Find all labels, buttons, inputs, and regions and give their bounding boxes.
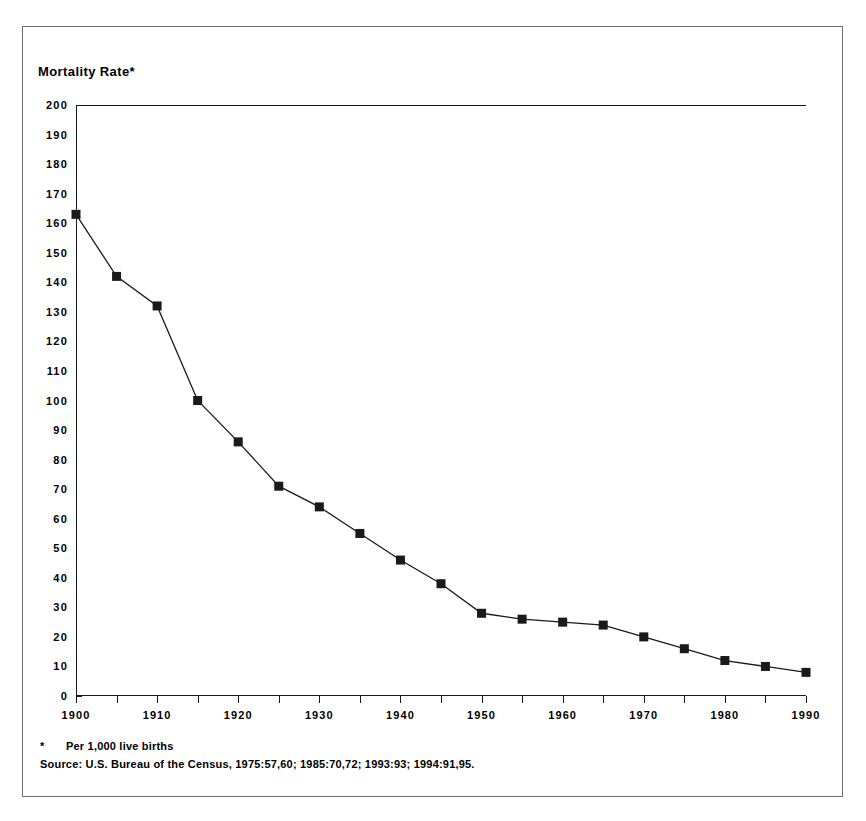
y-axis-tick-label: 190	[46, 129, 68, 141]
chart-title: Mortality Rate*	[38, 64, 135, 79]
footnote-asterisk: *	[40, 738, 66, 755]
x-axis-tick-mark	[117, 696, 118, 703]
data-point-marker	[802, 668, 811, 677]
data-point-marker	[558, 618, 567, 627]
y-axis-tick-label: 30	[53, 601, 68, 613]
data-point-marker	[153, 301, 162, 310]
y-axis-tick-label: 70	[53, 483, 68, 495]
y-axis-tick-label: 150	[46, 247, 68, 259]
x-axis-tick-label: 1950	[467, 709, 496, 721]
x-axis-tick-mark	[806, 696, 807, 703]
x-axis-tick-mark	[238, 696, 239, 703]
y-axis-tick-label: 0	[61, 690, 68, 702]
x-axis-tick-mark	[319, 696, 320, 703]
data-point-marker	[234, 437, 243, 446]
y-axis-tick-label: 20	[53, 631, 68, 643]
x-axis-tick-label: 1900	[62, 709, 91, 721]
y-axis-tick-label: 90	[53, 424, 68, 436]
x-axis-tick-label: 1930	[305, 709, 334, 721]
x-axis-tick-labels: 1900191019201930194019501960197019801990	[76, 709, 806, 727]
x-axis-tick-marks	[76, 696, 806, 706]
x-axis-tick-mark	[684, 696, 685, 703]
x-axis-tick-mark	[198, 696, 199, 703]
data-point-marker	[761, 662, 770, 671]
x-axis-tick-label: 1970	[629, 709, 658, 721]
x-axis-tick-mark	[482, 696, 483, 703]
x-axis-tick-mark	[157, 696, 158, 703]
data-point-marker	[193, 396, 202, 405]
figure-container: Mortality Rate* 200190180170160150140130…	[0, 0, 866, 821]
x-axis-tick-label: 1940	[386, 709, 415, 721]
data-point-marker	[518, 615, 527, 624]
mortality-rate-line-series	[76, 105, 806, 696]
y-axis-tick-label: 50	[53, 542, 68, 554]
x-axis-tick-mark	[644, 696, 645, 703]
data-point-marker	[72, 210, 81, 219]
x-axis-tick-mark	[725, 696, 726, 703]
x-axis-tick-label: 1990	[792, 709, 821, 721]
footnote-source-text: Source: U.S. Bureau of the Census, 1975:…	[40, 756, 475, 773]
x-axis-tick-mark	[522, 696, 523, 703]
data-point-marker	[680, 644, 689, 653]
x-axis-tick-mark	[76, 696, 77, 703]
x-axis-tick-mark	[279, 696, 280, 703]
x-axis-tick-mark	[603, 696, 604, 703]
series-polyline	[76, 214, 806, 672]
footnote-note-row: * Per 1,000 live births	[40, 738, 820, 755]
y-axis-tick-label: 120	[46, 335, 68, 347]
x-axis-tick-label: 1920	[224, 709, 253, 721]
y-axis-tick-label: 130	[46, 306, 68, 318]
footnote-source-row: Source: U.S. Bureau of the Census, 1975:…	[40, 756, 820, 773]
x-axis-tick-mark	[360, 696, 361, 703]
x-axis-tick-mark	[563, 696, 564, 703]
data-point-marker	[274, 482, 283, 491]
y-axis-tick-label: 100	[46, 395, 68, 407]
y-axis-tick-label: 140	[46, 276, 68, 288]
data-point-marker	[477, 609, 486, 618]
y-axis-tick-label: 160	[46, 217, 68, 229]
x-axis-tick-label: 1980	[710, 709, 739, 721]
x-axis-tick-mark	[441, 696, 442, 703]
data-point-marker	[720, 656, 729, 665]
y-axis-tick-label: 170	[46, 188, 68, 200]
x-axis-tick-label: 1910	[143, 709, 172, 721]
data-point-marker	[396, 556, 405, 565]
y-axis-tick-label: 180	[46, 158, 68, 170]
x-axis-tick-label: 1960	[548, 709, 577, 721]
data-point-marker	[599, 621, 608, 630]
y-axis-tick-label: 60	[53, 513, 68, 525]
y-axis-tick-labels: 2001901801701601501401301201101009080706…	[22, 105, 68, 696]
y-axis-tick-label: 110	[47, 365, 68, 377]
footnotes: * Per 1,000 live births Source: U.S. Bur…	[40, 738, 820, 773]
data-point-marker	[437, 579, 446, 588]
series-markers	[72, 210, 811, 677]
footnote-note-text: Per 1,000 live births	[66, 738, 174, 755]
y-axis-tick-label: 80	[53, 454, 68, 466]
y-axis-tick-label: 10	[53, 660, 68, 672]
data-point-marker	[639, 632, 648, 641]
x-axis-tick-mark	[400, 696, 401, 703]
data-point-marker	[112, 272, 121, 281]
y-axis-tick-label: 40	[53, 572, 68, 584]
data-point-marker	[355, 529, 364, 538]
y-axis-tick-label: 200	[46, 99, 68, 111]
x-axis-tick-mark	[765, 696, 766, 703]
data-point-marker	[315, 502, 324, 511]
